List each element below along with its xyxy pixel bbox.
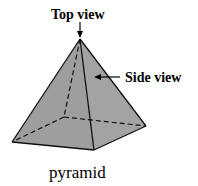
top-view-label: Top view — [51, 7, 105, 22]
pyramid-diagram: Top view Side view pyramid — [0, 0, 198, 186]
caption: pyramid — [49, 163, 106, 182]
side-view-label: Side view — [125, 70, 182, 85]
top-view-arrow — [77, 22, 83, 38]
